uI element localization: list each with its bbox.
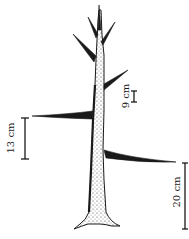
branch-long-right bbox=[104, 150, 176, 162]
measure-13cm-bar bbox=[21, 118, 29, 159]
measure-9cm-bar bbox=[131, 91, 137, 102]
branch-top-left bbox=[88, 17, 98, 38]
measure-20cm-bar bbox=[182, 163, 188, 229]
measure-13cm-label: 13 cm bbox=[6, 121, 16, 155]
measure-9cm-label: 9 cm bbox=[121, 83, 131, 109]
measure-20cm-label: 20 cm bbox=[172, 175, 182, 209]
branch-top-right bbox=[101, 22, 115, 45]
branch-upper-left bbox=[73, 34, 96, 62]
branch-long-left bbox=[32, 111, 93, 119]
tree-diagram bbox=[0, 0, 189, 239]
